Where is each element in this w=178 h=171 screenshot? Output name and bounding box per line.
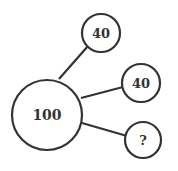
- node-middle-label: 40: [132, 76, 150, 91]
- node-top-label: 40: [92, 26, 110, 41]
- center-node-label: 100: [32, 107, 61, 123]
- diagram-canvas: 100 40 40 ?: [0, 0, 178, 171]
- connector-top: [59, 46, 88, 79]
- node-bottom-label: ?: [139, 133, 147, 148]
- connector-bottom: [82, 123, 127, 136]
- connector-middle: [81, 87, 123, 98]
